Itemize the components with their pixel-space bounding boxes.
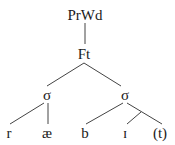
edge-ft-sigma1 (47, 63, 84, 86)
node-segment-b: b (81, 126, 89, 141)
node-segment-r: r (7, 126, 12, 141)
node-segment-ae: æ (42, 126, 52, 141)
edge-sigma1-r (10, 103, 44, 124)
node-syllable-1: σ (43, 88, 51, 103)
edge-branch-i (127, 112, 141, 124)
node-prwd: PrWd (68, 8, 103, 23)
edge-sigma2-t (127, 103, 162, 124)
node-segment-i: ɪ (123, 126, 127, 141)
node-segment-t: (t) (153, 126, 167, 141)
edge-ft-sigma2 (84, 63, 121, 86)
edge-sigma2-b (86, 103, 123, 124)
node-syllable-2: σ (121, 88, 129, 103)
node-foot: Ft (78, 47, 91, 62)
